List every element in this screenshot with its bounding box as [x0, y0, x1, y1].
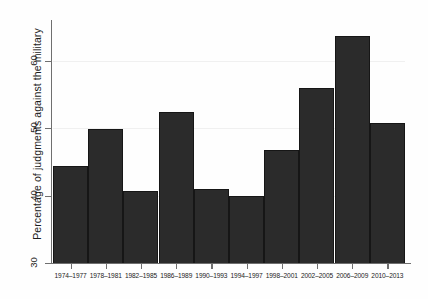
bar: [194, 189, 229, 263]
x-axis-tick: [282, 264, 283, 269]
bar: [229, 196, 264, 264]
bar: [335, 36, 370, 263]
x-axis-tick-label: 1974–1977: [53, 272, 88, 279]
bar: [264, 150, 299, 263]
bar-series: [53, 20, 405, 263]
x-axis-tick: [317, 264, 318, 269]
bar-chart-figure: Percentage of judgments against the mili…: [0, 0, 428, 299]
x-axis-tick: [71, 264, 72, 269]
x-axis-tick-label: 1994–1997: [229, 272, 264, 279]
bar: [88, 129, 123, 263]
y-axis-tick-label: 60: [28, 47, 39, 73]
x-axis-tick-label: 2006–2009: [335, 272, 370, 279]
x-axis-tick-label: 1998–2001: [264, 272, 299, 279]
y-axis-tick: [45, 128, 52, 129]
x-axis-tick: [176, 264, 177, 269]
x-axis-tick-label: 1982–1985: [123, 272, 158, 279]
x-axis-tick-label: 2002–2005: [299, 272, 334, 279]
y-axis-tick-label: 40: [28, 182, 39, 208]
x-axis-tick: [141, 264, 142, 269]
x-axis-tick-label: 1986–1989: [159, 272, 194, 279]
x-axis-tick: [211, 264, 212, 269]
y-axis-tick: [45, 263, 52, 264]
x-axis-tick: [106, 264, 107, 269]
y-axis-tick: [45, 196, 52, 197]
bar: [370, 123, 405, 263]
bar: [299, 88, 334, 263]
y-axis-tick-label: 50: [28, 115, 39, 141]
x-axis-tick-label: 2010–2013: [370, 272, 405, 279]
x-axis-tick: [352, 264, 353, 269]
x-axis-tick: [247, 264, 248, 269]
bar: [123, 191, 158, 263]
y-axis-tick: [45, 61, 52, 62]
x-axis-tick-label: 1990–1993: [194, 272, 229, 279]
bar: [159, 112, 194, 263]
y-axis-tick-label: 30: [28, 250, 39, 276]
x-axis-tick: [387, 264, 388, 269]
bar: [53, 166, 88, 263]
x-axis-tick-label: 1978–1981: [88, 272, 123, 279]
